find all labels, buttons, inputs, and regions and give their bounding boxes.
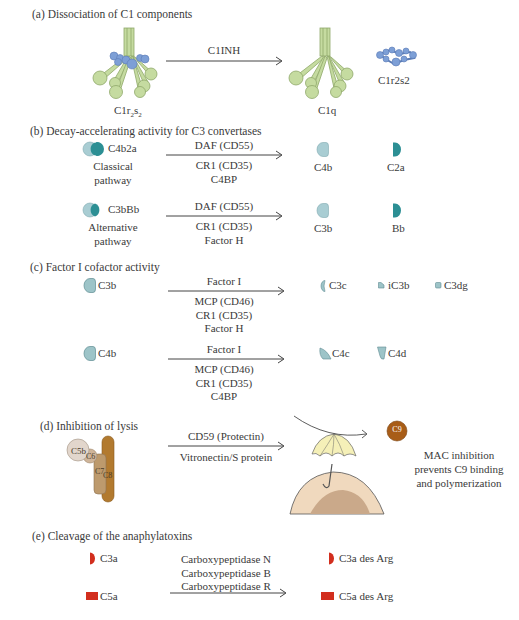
ic3b-fragment-icon: [378, 282, 385, 289]
c3bbb-label: C3bBb: [108, 203, 139, 215]
reaction-arrow-icon: [166, 212, 284, 220]
reaction-arrow-icon: [166, 151, 284, 159]
enzyme-label: Factor H: [166, 234, 282, 248]
enzyme-list: CR1 (CD35) Factor H: [166, 220, 282, 247]
c4b-product-label: C4b: [314, 161, 332, 173]
pathway-line: Alternative: [84, 220, 142, 234]
c9-label: C9: [386, 425, 408, 434]
c5a-des-arg-label: C5a des Arg: [339, 590, 393, 602]
c8-text: C8: [103, 471, 112, 480]
enzyme-label: MCP (CD46): [166, 363, 282, 377]
c3b-substrate-label: C3b: [98, 279, 116, 291]
ic3b-product-label: iC3b: [388, 279, 409, 291]
bb-product-label: Bb: [392, 222, 405, 234]
reaction-arrow-icon: [168, 442, 286, 450]
section-e-title: (e) Cleavage of the anaphylatoxins: [32, 530, 192, 542]
c2a-fragment-icon: [392, 142, 402, 157]
c2a-product-label: C2a: [387, 161, 405, 173]
pathway-line: Classical: [88, 159, 138, 173]
c3dg-product-label: C3dg: [444, 279, 468, 291]
label-part: C1r: [114, 104, 131, 116]
section-c-title: (c) Factor I cofactor activity: [30, 261, 160, 273]
c4b2a-complex-icon: [82, 141, 106, 157]
c4b-fragment-icon: [317, 142, 329, 157]
enzyme-label: C4BP: [166, 173, 282, 187]
c3b-product-label: C3b: [314, 222, 332, 234]
enzyme-label: CR1 (CD35): [166, 220, 282, 234]
reaction-arrow-icon: [166, 57, 284, 65]
c4d-fragment-icon: [377, 346, 387, 361]
section-a-title: (a) Dissociation of C1 components: [32, 8, 192, 20]
c3a-des-arg-icon: [328, 552, 334, 565]
mac-inhibition-note: MAC inhibition prevents C9 binding and p…: [404, 448, 514, 490]
c4d-product-label: C4d: [388, 347, 406, 359]
bb-fragment-icon: [392, 203, 402, 218]
c5a-des-arg-icon: [321, 592, 335, 600]
c3a-des-arg-label: C3a des Arg: [339, 552, 393, 564]
enzyme-list: Carboxypeptidase N Carboxypeptidase B Ca…: [168, 553, 284, 594]
enzyme-label: CR1 (CD35): [166, 377, 282, 391]
enzyme-list: CR1 (CD35) C4BP: [166, 159, 282, 186]
c1inh-label: C1INH: [166, 44, 282, 58]
note-line: and polymerization: [404, 476, 514, 490]
c3c-product-label: C3c: [329, 279, 347, 291]
enzyme-list: MCP (CD46) CR1 (CD35) Factor H: [166, 295, 282, 336]
classical-pathway-label: Classical pathway: [88, 159, 138, 187]
c4c-product-label: C4c: [332, 347, 350, 359]
enzyme-label: CR1 (CD35): [166, 309, 282, 323]
reaction-arrow-icon: [168, 355, 286, 363]
note-line: prevents C9 binding: [404, 462, 514, 476]
c1-complex-icon: [88, 28, 168, 100]
c3c-fragment-icon: [320, 280, 326, 292]
c3b-substrate-icon: [84, 278, 96, 293]
c1q-label: C1q: [318, 104, 336, 116]
c5a-icon: [86, 592, 99, 600]
enzyme-label: Factor H: [166, 322, 282, 336]
section-b-title: (b) Decay-accelerating activity for C3 c…: [30, 125, 261, 137]
c1r2s2-product-label: C1r2s2: [378, 74, 410, 86]
enzyme-label: MCP (CD46): [166, 295, 282, 309]
pathway-line: pathway: [84, 234, 142, 248]
c3b-fragment-icon: [317, 203, 329, 218]
c4b2a-label: C4b2a: [108, 142, 137, 154]
alternative-pathway-label: Alternative pathway: [84, 220, 142, 248]
enzyme-label: CR1 (CD35): [166, 159, 282, 173]
c4c-fragment-icon: [319, 347, 332, 361]
reaction-arrow-icon: [168, 287, 286, 295]
c1r2s2-icon: [376, 44, 418, 68]
c3dg-fragment-icon: [435, 282, 442, 289]
c4b-substrate-label: C4b: [98, 347, 116, 359]
c5a-label: C5a: [100, 590, 118, 602]
reaction-arrow-icon: [170, 589, 288, 597]
cell-umbrella-icon: [288, 414, 398, 516]
c3bbb-complex-icon: [82, 202, 106, 218]
enzyme-label: C4BP: [166, 390, 282, 404]
subscript: 2: [138, 111, 142, 119]
mac-complex-icon: C5b C6 C7 C8: [66, 436, 126, 510]
c4b-substrate-icon: [84, 346, 96, 361]
c3a-icon: [89, 552, 95, 565]
enzyme-bottom-label: Vitronectin/S protein: [166, 451, 286, 465]
c5b-text: C5b: [71, 446, 87, 456]
c3a-label: C3a: [100, 552, 118, 564]
section-d-title: (d) Inhibition of lysis: [40, 420, 138, 432]
pathway-line: pathway: [88, 173, 138, 187]
c6-text: C6: [86, 452, 95, 461]
c1q-icon: [284, 28, 364, 100]
enzyme-label: Carboxypeptidase N: [168, 553, 284, 567]
c1r2s2-reactant-label: C1r2s2: [114, 104, 142, 119]
enzyme-label: Carboxypeptidase B: [168, 567, 284, 581]
note-line: MAC inhibition: [404, 448, 514, 462]
enzyme-list: MCP (CD46) CR1 (CD35) C4BP: [166, 363, 282, 404]
